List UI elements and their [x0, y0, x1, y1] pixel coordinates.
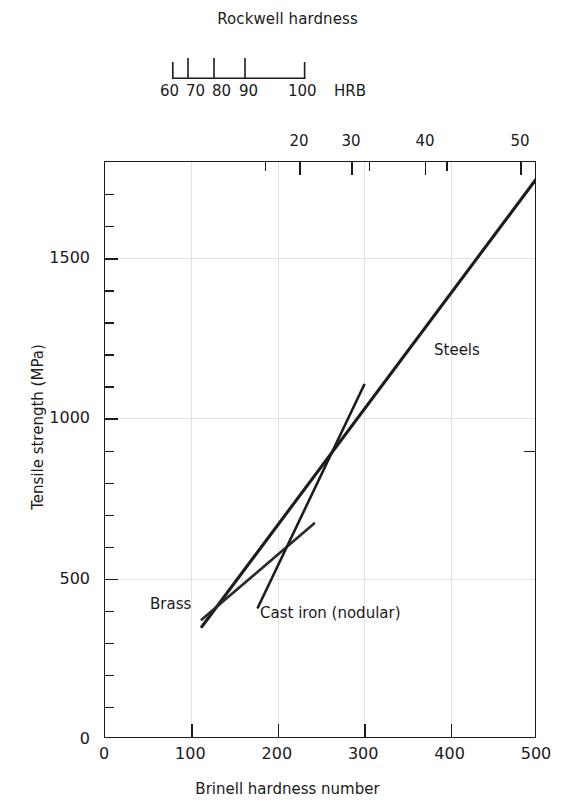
hrb-tick-60: 60	[160, 82, 179, 100]
x-axis-title: Brinell hardness number	[0, 780, 575, 798]
rockwell-c-tick-labels: 20 30 40 50	[0, 132, 575, 154]
xlabel-0: 0	[99, 744, 109, 763]
rockwell-scale-title: Rockwell hardness	[0, 10, 575, 28]
series-label-brass: Brass	[150, 595, 191, 613]
xlabel-400: 400	[434, 744, 465, 763]
y-axis-tick-labels: 1500 1000 500 0	[0, 161, 100, 738]
ylabel-500: 500	[59, 568, 90, 587]
series-line-steels	[202, 178, 535, 627]
ylabel-1500: 1500	[49, 248, 90, 267]
series-label-cast-iron: Cast iron (nodular)	[260, 604, 401, 622]
ylabel-1000: 1000	[49, 408, 90, 427]
data-curves	[105, 162, 535, 737]
series-label-steels: Steels	[434, 341, 480, 359]
rockwell-b-tick-labels: 60 70 80 90 100 HRB	[120, 82, 460, 104]
hrb-tick-90: 90	[239, 82, 258, 100]
hrb-tick-100: 100	[288, 82, 317, 100]
xlabel-100: 100	[175, 744, 206, 763]
ylabel-0: 0	[80, 729, 90, 748]
hrc-tick-40: 40	[415, 132, 434, 150]
y-axis-title: Tensile strength (MPa)	[29, 277, 47, 577]
hrb-unit-label: HRB	[334, 82, 366, 100]
hrc-tick-50: 50	[510, 132, 529, 150]
xlabel-500: 500	[521, 744, 552, 763]
hrc-tick-30: 30	[341, 132, 360, 150]
xlabel-300: 300	[348, 744, 379, 763]
figure-tensile-strength-vs-hardness: Rockwell hardness 60 70 80 90 100 HRB 20…	[0, 0, 575, 812]
rockwell-b-scale-bar	[172, 58, 306, 80]
hrb-tick-70: 70	[186, 82, 205, 100]
series-line-cast-iron	[258, 385, 364, 608]
plot-area	[104, 161, 536, 738]
plot-inner	[105, 162, 535, 737]
hrc-tick-20: 20	[289, 132, 308, 150]
x-axis-tick-labels: 0 100 200 300 400 500	[104, 744, 536, 768]
hrb-tick-80: 80	[212, 82, 231, 100]
xlabel-200: 200	[262, 744, 293, 763]
